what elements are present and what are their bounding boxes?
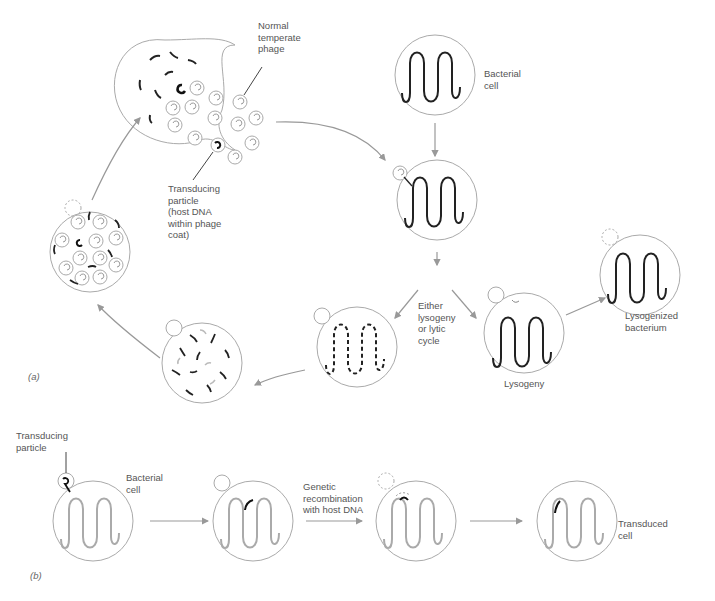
infected-cell xyxy=(393,160,477,240)
label-bacterial-cell-b: Bacterial cell xyxy=(126,472,163,495)
lysogeny-cell xyxy=(484,287,564,373)
bacterial-cell-a xyxy=(395,35,475,115)
label-recombination: Genetic recombination with host DNA xyxy=(303,481,363,516)
packed-cell xyxy=(50,200,130,292)
lysed-cell-fragments xyxy=(162,320,242,403)
lysogenized-cell xyxy=(600,229,680,315)
lytic-cell xyxy=(314,307,397,387)
label-either: Either lysogeny or lytic cycle xyxy=(418,300,456,346)
label-lysogeny: Lysogeny xyxy=(504,378,544,390)
label-lysogenized: Lysogenized bacterium xyxy=(625,310,678,333)
label-bacterial-cell-a: Bacterial cell xyxy=(484,68,521,91)
panel-label-b: (b) xyxy=(30,570,42,581)
panel-label-a: (a) xyxy=(28,371,40,382)
transduction-diagram: Normal temperate phage Transducing parti… xyxy=(0,0,715,601)
label-transducing-particle-a: Transducing particle (host DNA within ph… xyxy=(168,183,221,241)
label-normal-phage: Normal temperate phage xyxy=(258,20,301,55)
label-transduced: Transduced cell xyxy=(618,518,668,541)
label-transducing-particle-b: Transducing particle xyxy=(16,430,68,453)
